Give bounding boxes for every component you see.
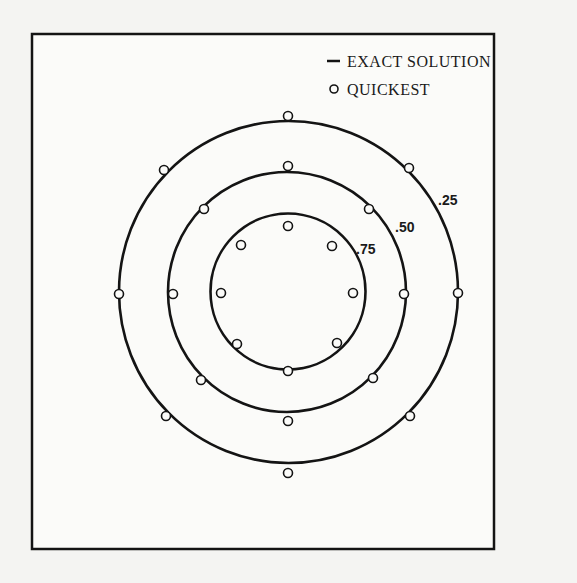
marker-icon (284, 162, 293, 171)
label-075: .75 (356, 241, 376, 257)
marker-icon (406, 412, 415, 421)
marker-icon (169, 290, 178, 299)
marker-icon (162, 412, 171, 421)
marker-icon (405, 164, 414, 173)
marker-icon (454, 289, 463, 298)
marker-icon (349, 289, 358, 298)
marker-icon (217, 289, 226, 298)
marker-icon (160, 166, 169, 175)
legend-quickest-label: QUICKEST (347, 81, 430, 98)
marker-icon (233, 340, 242, 349)
marker-icon (400, 290, 409, 299)
marker-icon (284, 112, 293, 121)
marker-icon (284, 469, 293, 478)
marker-icon (197, 376, 206, 385)
marker-icon (237, 241, 246, 250)
marker-icon (365, 205, 374, 214)
marker-icon (284, 222, 293, 231)
legend-exact-label: EXACT SOLUTION (347, 53, 491, 70)
label-050: .50 (395, 219, 415, 235)
chart-svg: EXACT SOLUTION QUICKEST .25 .50 .75 (0, 0, 577, 583)
marker-icon (333, 339, 342, 348)
marker-icon (200, 205, 209, 214)
marker-icon (284, 367, 293, 376)
marker-icon (115, 290, 124, 299)
contour-figure: EXACT SOLUTION QUICKEST .25 .50 .75 (0, 0, 577, 583)
marker-icon (284, 417, 293, 426)
plot-frame (32, 34, 494, 549)
label-025: .25 (438, 192, 458, 208)
marker-icon (328, 242, 337, 251)
marker-icon (369, 374, 378, 383)
